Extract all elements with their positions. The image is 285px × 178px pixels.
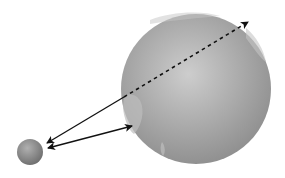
diagram-canvas [0,0,285,178]
tangent-arrow [48,126,132,148]
earth-moon-diagram [0,0,285,178]
moon [17,139,43,165]
near-side-arrow [47,97,124,143]
earth-globe [121,13,271,164]
